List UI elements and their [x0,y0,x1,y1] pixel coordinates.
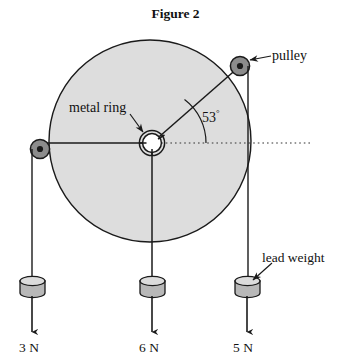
pulley-label: pulley [272,49,307,63]
pulley-right [230,56,249,75]
weight-right [235,276,260,297]
force-label-left: 3 N [19,341,39,355]
angle-value: 53 [202,110,216,125]
weight-left [20,276,45,297]
force-label-right: 5 N [233,341,253,355]
figure-title: Figure 2 [0,7,351,21]
leader-line-lead-weight [253,263,272,280]
lead-weight-label: lead weight [262,251,325,265]
force-label-middle: 6 N [139,341,159,355]
pulley-left [30,139,49,158]
angle-label: 53° [202,109,220,125]
degree-symbol: ° [216,108,220,118]
figure-2-diagram: Figure 2 pulley metal ring 53° lead weig… [0,0,351,364]
weight-middle [140,276,165,297]
metal-ring-label: metal ring [69,101,126,115]
leader-line-pulley [250,56,271,60]
